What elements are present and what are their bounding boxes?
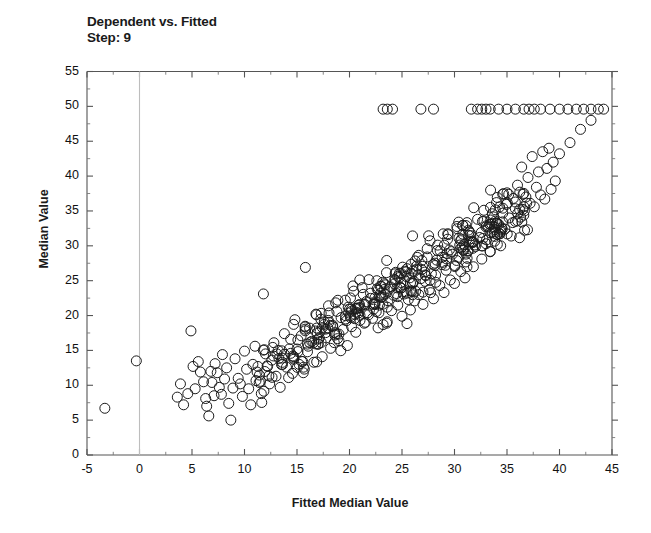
y-axis-label: Median Value bbox=[37, 149, 51, 309]
data-point bbox=[246, 400, 256, 410]
x-tick-label: 45 bbox=[592, 462, 632, 476]
data-point bbox=[228, 383, 238, 393]
x-tick-label: 5 bbox=[172, 462, 212, 476]
data-point bbox=[195, 367, 205, 377]
x-tick-label: 25 bbox=[382, 462, 422, 476]
data-point bbox=[342, 341, 352, 351]
data-point bbox=[275, 382, 285, 392]
data-point bbox=[405, 305, 415, 315]
data-point bbox=[300, 262, 310, 272]
data-point bbox=[550, 176, 560, 186]
y-tick-label: 50 bbox=[39, 98, 79, 112]
data-point bbox=[224, 398, 234, 408]
data-point bbox=[548, 157, 558, 167]
data-point bbox=[183, 389, 193, 399]
data-point bbox=[517, 162, 527, 172]
data-point bbox=[202, 401, 212, 411]
data-point bbox=[545, 104, 555, 114]
data-point bbox=[190, 384, 200, 394]
data-point bbox=[279, 329, 289, 339]
data-point bbox=[220, 374, 230, 384]
data-point bbox=[408, 231, 418, 241]
data-point bbox=[226, 415, 236, 425]
data-point bbox=[333, 295, 343, 305]
data-point bbox=[540, 194, 550, 204]
data-point bbox=[244, 384, 254, 394]
scatter-plot-figure: Dependent vs. Fitted Step: 9 -5051015202… bbox=[0, 0, 651, 533]
data-point bbox=[397, 311, 407, 321]
data-point bbox=[523, 172, 533, 182]
data-point bbox=[179, 400, 189, 410]
data-point bbox=[233, 373, 243, 383]
data-point bbox=[258, 289, 268, 299]
x-axis-label: Fitted Median Value bbox=[87, 496, 613, 510]
data-point bbox=[206, 366, 216, 376]
axes-group bbox=[87, 72, 618, 456]
data-point bbox=[538, 147, 548, 157]
data-point bbox=[565, 138, 575, 148]
data-point bbox=[452, 224, 462, 234]
data-point bbox=[100, 403, 110, 413]
x-tick-label: 30 bbox=[435, 462, 475, 476]
data-point bbox=[242, 364, 252, 374]
data-point bbox=[217, 350, 227, 360]
data-point bbox=[416, 104, 426, 114]
data-point bbox=[466, 104, 476, 114]
data-point bbox=[382, 255, 392, 265]
x-tick-label: 20 bbox=[330, 462, 370, 476]
data-point bbox=[527, 152, 537, 162]
x-tick-label: -5 bbox=[67, 462, 107, 476]
y-tick-label: 15 bbox=[39, 342, 79, 356]
x-tick-label: 10 bbox=[225, 462, 265, 476]
y-tick-label: 10 bbox=[39, 377, 79, 391]
plot-canvas bbox=[0, 0, 651, 533]
data-point bbox=[542, 163, 552, 173]
data-point bbox=[326, 343, 336, 353]
y-tick-label: 55 bbox=[39, 64, 79, 78]
data-point bbox=[186, 326, 196, 336]
data-point bbox=[210, 359, 220, 369]
data-points-group bbox=[100, 104, 609, 425]
y-tick-label: 20 bbox=[39, 308, 79, 322]
data-point bbox=[175, 379, 185, 389]
data-point bbox=[429, 104, 439, 114]
data-point bbox=[204, 411, 214, 421]
y-tick-label: 45 bbox=[39, 133, 79, 147]
data-point bbox=[469, 203, 479, 213]
data-point bbox=[544, 143, 554, 153]
data-point bbox=[222, 363, 232, 373]
data-point bbox=[402, 319, 412, 329]
data-point bbox=[555, 149, 565, 159]
data-point bbox=[259, 386, 269, 396]
data-point bbox=[317, 352, 327, 362]
data-point bbox=[531, 182, 541, 192]
y-tick-label: 5 bbox=[39, 412, 79, 426]
data-point bbox=[586, 115, 596, 125]
x-tick-label: 0 bbox=[120, 462, 160, 476]
data-point bbox=[429, 294, 439, 304]
data-point bbox=[230, 354, 240, 364]
data-point bbox=[477, 254, 487, 264]
y-tick-label: 0 bbox=[39, 447, 79, 461]
data-point bbox=[240, 346, 250, 356]
x-tick-label: 15 bbox=[277, 462, 317, 476]
data-point bbox=[418, 299, 428, 309]
x-tick-label: 40 bbox=[540, 462, 580, 476]
data-point bbox=[284, 373, 294, 383]
data-point bbox=[576, 124, 586, 134]
data-point bbox=[536, 190, 546, 200]
x-tick-label: 35 bbox=[487, 462, 527, 476]
data-point bbox=[216, 389, 226, 399]
data-point bbox=[536, 104, 546, 114]
